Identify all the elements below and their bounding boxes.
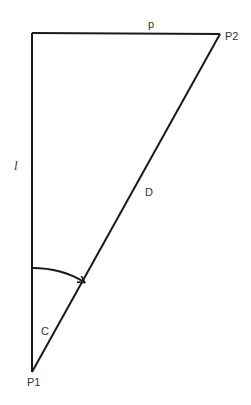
triangle-diagram: p P2 l D C P1 — [0, 0, 251, 405]
label-c: C — [41, 325, 49, 337]
label-d: D — [145, 186, 153, 198]
label-p1: P1 — [27, 376, 40, 388]
label-p: p — [148, 18, 154, 30]
label-p2: P2 — [225, 30, 238, 42]
angle-arc-arrow — [32, 268, 84, 282]
side-p-line — [32, 33, 220, 34]
label-l: l — [14, 158, 18, 173]
hypotenuse-d-line — [32, 34, 220, 372]
